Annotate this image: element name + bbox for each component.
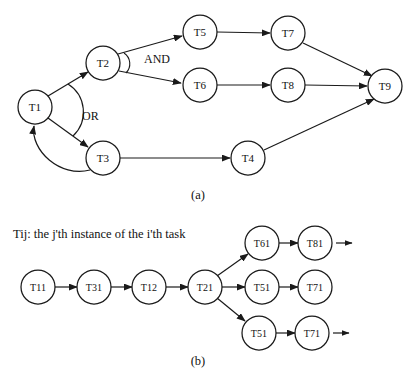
feedback-edge-T3-T1 [34,126,90,171]
node-T71-bottom[interactable]: T71 [295,316,329,350]
edge-T8-T9 [305,85,367,86]
node-label: T11 [30,282,46,293]
node-T61[interactable]: T61 [245,226,279,260]
node-label: T6 [194,79,207,91]
node-T8[interactable]: T8 [271,68,305,102]
node-T6[interactable]: T6 [183,68,217,102]
instance-notation-note: Tij: the j'th instance of the i'th task [13,227,185,242]
panel-label-b: (b) [178,354,218,369]
node-label: T12 [141,282,157,293]
node-label: T2 [97,57,109,69]
edge-T21-T61 [217,254,248,276]
figure-root: AND OR T1 T2 T3 T4 T5 [0,0,417,379]
node-T71-middle[interactable]: T71 [298,270,332,304]
node-T1[interactable]: T1 [18,90,52,124]
edge-T2-T6 [119,71,181,83]
or-operator-label: OR [82,109,99,123]
node-T5[interactable]: T5 [183,15,217,49]
panel-a-nodes: T1 T2 T3 T4 T5 T6 [18,15,402,175]
node-label: T1 [29,101,41,113]
node-T7[interactable]: T7 [271,16,305,50]
node-label: T71 [307,282,323,293]
node-T11[interactable]: T11 [21,270,55,304]
node-label: T21 [197,282,213,293]
node-T81[interactable]: T81 [298,226,332,260]
node-T9[interactable]: T9 [368,69,402,103]
edge-T5-T7 [217,32,270,33]
node-T51-bottom[interactable]: T51 [242,316,276,350]
node-T12[interactable]: T12 [132,270,166,304]
node-label: T31 [86,282,102,293]
node-T31[interactable]: T31 [77,270,111,304]
node-label: T3 [97,152,110,164]
node-label: T5 [194,26,207,38]
edge-T7-T9 [303,43,372,76]
node-label: T51 [254,282,270,293]
node-label: T4 [242,152,255,164]
edge-T4-T9 [264,99,374,150]
node-T21[interactable]: T21 [188,270,222,304]
node-label: T51 [251,328,267,339]
edge-T21-T51b [217,298,245,321]
node-label: T9 [379,80,392,92]
node-T2[interactable]: T2 [86,46,120,80]
node-label: T8 [282,79,295,91]
node-label: T71 [304,328,320,339]
node-label: T7 [282,27,295,39]
and-operator-label: AND [144,52,170,66]
panel-label-a: (a) [178,188,218,203]
node-label: T61 [254,238,270,249]
node-T4[interactable]: T4 [231,141,265,175]
and-operator-arc [124,53,130,73]
panel-b-nodes: T11 T31 T12 T21 T61 T81 [21,226,332,350]
node-T51-middle[interactable]: T51 [245,270,279,304]
node-label: T81 [307,238,323,249]
node-T3[interactable]: T3 [86,141,120,175]
